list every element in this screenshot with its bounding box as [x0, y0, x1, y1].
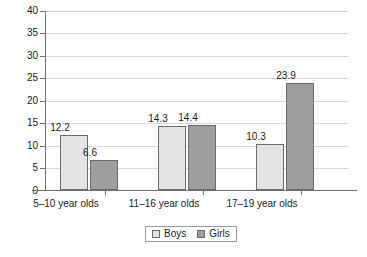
y-axis-labels: 40 35 30 25 20 15 10 5 0	[0, 0, 38, 257]
x-tick-mark	[203, 191, 204, 195]
bar-girls-group3	[286, 83, 314, 190]
y-tick-label: 25	[4, 73, 38, 83]
category-label-group3: 17–19 year olds	[207, 198, 317, 210]
y-tick-label: 0	[4, 186, 38, 196]
value-label-boys-group1: 12.2	[40, 123, 80, 133]
legend-swatch-boys-icon	[152, 230, 160, 238]
bar-boys-group2	[158, 126, 186, 190]
value-label-girls-group1: 6.6	[70, 148, 110, 158]
bar-girls-group2	[188, 125, 216, 190]
bar-boys-group1	[60, 135, 88, 190]
legend-label-girls: Girls	[209, 229, 230, 239]
category-label-group1: 5–10 year olds	[11, 198, 121, 210]
x-axis-line	[32, 190, 357, 191]
y-tick-label: 35	[4, 28, 38, 38]
value-label-boys-group3: 10.3	[236, 132, 276, 142]
legend-swatch-girls-icon	[197, 230, 205, 238]
legend-entry-girls: Girls	[197, 229, 230, 239]
value-label-girls-group3: 23.9	[266, 71, 306, 81]
value-label-girls-group2: 14.4	[168, 113, 208, 123]
gridline	[45, 56, 348, 57]
x-tick-mark	[301, 191, 302, 195]
y-tick-label: 15	[4, 118, 38, 128]
y-tick-label: 40	[4, 6, 38, 16]
x-tick-mark	[105, 191, 106, 195]
chart-legend: Boys Girls	[145, 226, 237, 242]
category-label-group2: 11–16 year olds	[109, 198, 219, 210]
bar-girls-group1	[90, 160, 118, 190]
y-axis-line	[45, 11, 46, 191]
y-tick-label: 10	[4, 141, 38, 151]
y-tick-label: 5	[4, 163, 38, 173]
gridline	[45, 11, 348, 12]
legend-label-boys: Boys	[164, 229, 186, 239]
y-tick-label: 20	[4, 96, 38, 106]
gridline	[45, 33, 348, 34]
legend-entry-boys: Boys	[152, 229, 186, 239]
plot-area	[45, 11, 348, 190]
bar-boys-group3	[256, 144, 284, 190]
bar-chart: 40 35 30 25 20 15 10 5 0 12.2	[0, 0, 367, 257]
y-tick-label: 30	[4, 51, 38, 61]
